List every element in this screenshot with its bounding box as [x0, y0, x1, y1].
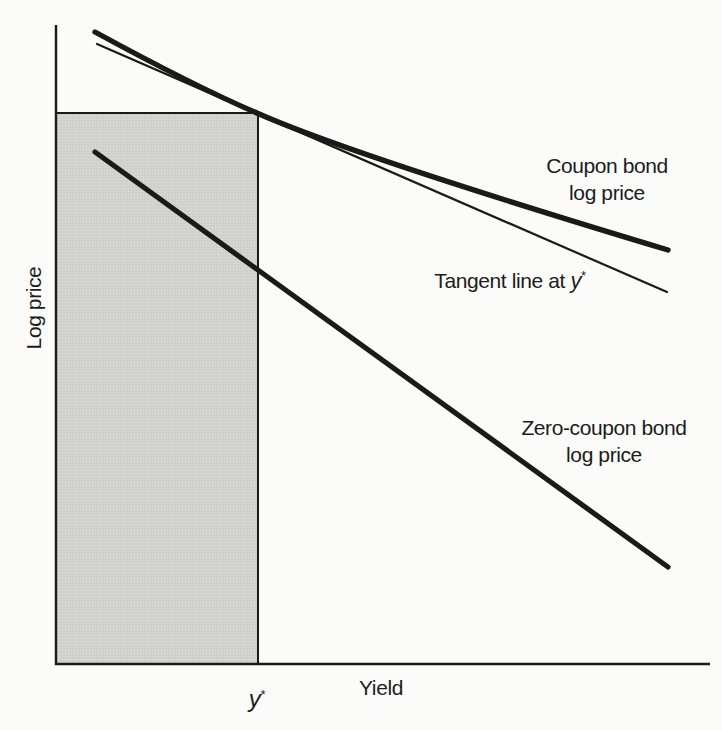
x-tick-variable: y: [249, 685, 261, 712]
coupon-bond-label-line2: log price: [546, 179, 668, 206]
figure-canvas: [0, 0, 722, 730]
zero-coupon-label-line2: log price: [521, 441, 686, 468]
figure: Log price Coupon bond log price Tangent …: [0, 0, 722, 730]
tangent-line-label: Tangent line at y*: [434, 267, 585, 294]
coupon-bond-label: Coupon bond log price: [546, 152, 668, 206]
zero-coupon-bond-label: Zero-coupon bond log price: [521, 414, 686, 468]
x-axis-label: Yield: [359, 674, 403, 701]
tangent-label-variable: y: [570, 268, 581, 293]
zero-coupon-label-line1: Zero-coupon bond: [521, 414, 686, 441]
tangent-label-text: Tangent line at: [434, 269, 570, 292]
x-tick-ystar: y*: [249, 685, 265, 713]
tangent-label-star: *: [581, 268, 586, 283]
coupon-bond-label-line1: Coupon bond: [546, 152, 668, 179]
x-tick-star: *: [260, 687, 265, 702]
y-axis-label: Log price: [20, 267, 47, 350]
